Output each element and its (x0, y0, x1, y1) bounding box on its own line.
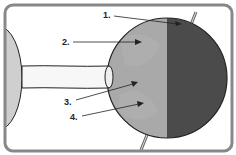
svg-text:1.: 1. (103, 10, 111, 20)
svg-text:3.: 3. (64, 97, 72, 107)
sun (0, 26, 22, 130)
beam-end (105, 66, 113, 88)
night-side (167, 10, 236, 150)
earth (100, 10, 236, 150)
light-beam (22, 66, 110, 89)
svg-text:4.: 4. (70, 112, 78, 122)
svg-text:2.: 2. (62, 37, 70, 47)
diagram: 1. 2. 3. 4. (0, 0, 236, 155)
